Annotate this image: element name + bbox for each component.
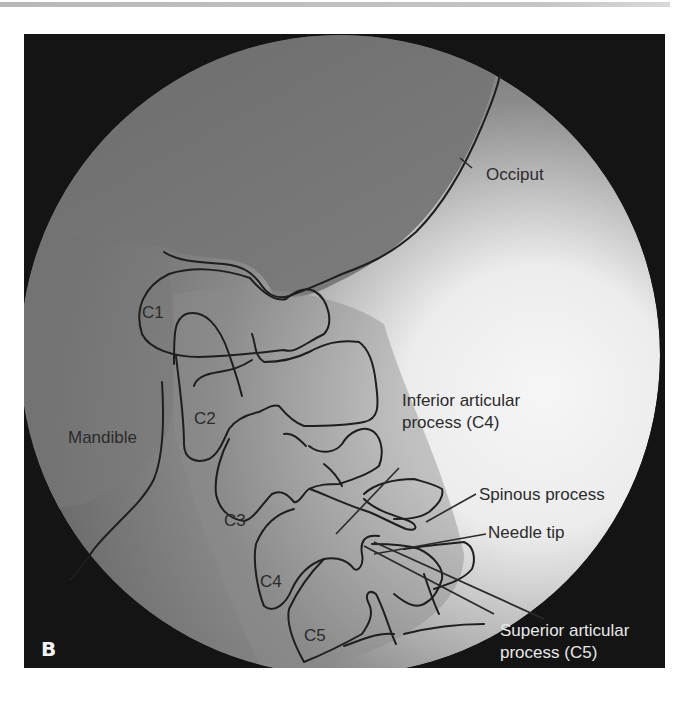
top-rule: [0, 2, 670, 7]
mandible-label: Mandible: [68, 428, 137, 447]
c4-label: C4: [260, 572, 282, 591]
fluoroscopy-figure: Occiput Mandible C1 C2 C3 C4 C5 Inferior…: [24, 34, 665, 668]
panel-label: B: [41, 637, 56, 661]
c5-label: C5: [304, 626, 326, 645]
c2-label: C2: [194, 409, 216, 428]
fluoroscopy-image: Occiput Mandible C1 C2 C3 C4 C5 Inferior…: [24, 34, 665, 668]
superior-articular-label-line2: process (C5): [500, 643, 597, 662]
occiput-label: Occiput: [486, 165, 544, 184]
c3-label: C3: [224, 511, 246, 530]
needle-tip-label: Needle tip: [488, 523, 565, 542]
spinous-process-label: Spinous process: [479, 485, 605, 504]
c1-label: C1: [142, 303, 164, 322]
inferior-articular-label-line2: process (C4): [402, 413, 499, 432]
superior-articular-label-line1: Superior articular: [500, 621, 630, 640]
inferior-articular-label-line1: Inferior articular: [402, 391, 520, 410]
